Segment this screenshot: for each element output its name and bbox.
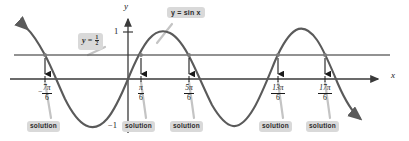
x-tick-denominator: 6 — [45, 94, 49, 103]
callout-solution: solution — [259, 121, 292, 132]
y-axis-label: y — [124, 1, 128, 11]
half-equation-fraction: 1 2 — [95, 35, 100, 48]
half-equation-operator: = — [88, 37, 93, 45]
callout-solution-text: solution — [262, 122, 289, 129]
callout-sine-equation-text: y = sin x — [171, 9, 201, 16]
x-tick-denominator: 6 — [187, 94, 191, 103]
half-equation-denominator: 2 — [95, 41, 100, 47]
x-tick-label-17pi-over-6: 17π6 — [311, 83, 339, 102]
x-tick-sign: − — [38, 87, 42, 96]
callout-solution-text: solution — [173, 122, 200, 129]
callout-half-line-equation: y = 1 2 — [78, 33, 103, 50]
solution-arrows — [45, 58, 325, 74]
x-tick-denominator: 6 — [323, 94, 327, 103]
callout-solution: solution — [306, 121, 339, 132]
callout-sine-equation: y = sin x — [167, 7, 205, 18]
callout-solution-text: solution — [30, 122, 57, 129]
x-tick-label-pi-over-6: π6 — [131, 83, 151, 102]
callout-solution-text: solution — [125, 122, 152, 129]
y-tick-label-one: 1 — [114, 26, 118, 36]
x-tick-label-5pi-over-6: 5π6 — [177, 83, 201, 102]
x-tick-label-neg-7pi-over-6: −7π6 — [31, 83, 59, 102]
half-equation: y = 1 2 — [82, 35, 99, 48]
x-axis-label: x — [391, 70, 395, 80]
x-tick-denominator: 6 — [276, 94, 280, 103]
callout-solution: solution — [122, 121, 155, 132]
callout-solution-text: solution — [309, 122, 336, 129]
x-tick-denominator: 6 — [139, 94, 143, 103]
plot-canvas — [0, 0, 409, 141]
half-equation-lhs: y — [82, 37, 86, 45]
sine-equation-figure: y x 1 −1 −7π6 π6 5π6 13π6 17π6 y = sin x… — [0, 0, 409, 141]
x-tick-label-13pi-over-6: 13π6 — [264, 83, 292, 102]
callout-solution: solution — [170, 121, 203, 132]
y-tick-label-negative-one: −1 — [108, 120, 117, 130]
callout-solution: solution — [27, 121, 60, 132]
